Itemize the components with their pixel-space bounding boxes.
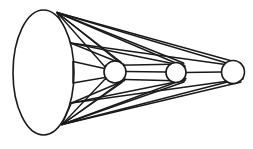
ruling-line: [186, 72, 222, 73]
sphere-1: [104, 61, 126, 83]
sphere-3: [222, 61, 245, 84]
ruling-line: [126, 72, 166, 73]
sphere-2: [166, 63, 186, 83]
figure-root: [0, 0, 253, 149]
cone-base-ellipse: [13, 10, 74, 135]
cone-diagram-svg: [0, 0, 253, 149]
